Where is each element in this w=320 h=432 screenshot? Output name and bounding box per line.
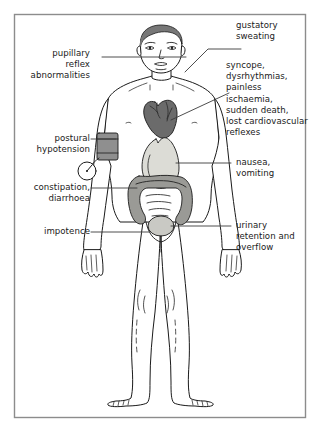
label-urinary-retention-overflow: urinary retention and overflow [236,220,310,254]
right-ear [181,46,185,56]
right-hand [220,250,241,277]
bladder [148,216,174,236]
diagram-container: pupillary reflex abnormalities postural … [0,0,320,432]
label-constipation-diarrhoea: constipation, diarrhoea [14,182,90,204]
label-postural-hypotension: postural hypotension [14,133,90,155]
gauge-hub [86,170,88,172]
left-hand [82,250,103,277]
left-ear [137,46,141,56]
label-gustatory-sweating: gustatory sweating [236,20,308,42]
label-nausea-vomiting: nausea, vomiting [236,157,308,179]
label-pupillary-reflex-abnormalities: pupillary reflex abnormalities [14,48,90,82]
blood-pressure-cuff [97,133,118,160]
label-cardiovascular-manifestations: syncope, dysrhythmias, painless ischaemi… [226,60,310,138]
label-impotence: impotence [14,226,90,237]
